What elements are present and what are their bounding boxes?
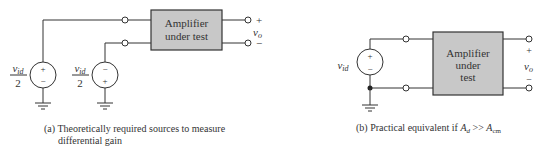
wire-b-top [370,39,433,49]
terminal-a-out2 [245,40,251,46]
source-b-minus: − [367,64,372,74]
amplifier-label-a1: Amplifier [165,17,209,29]
ground-icon [97,103,113,109]
terminal-a-in2 [122,40,128,46]
ground-icon [362,105,378,111]
circuit-a: Amplifier under test + − vo + − vid 2 − … [10,10,262,146]
source-a1-minus: − [40,76,45,86]
source-a1-label-num: vid [12,62,24,76]
source-a2-label-num: vid [74,62,86,76]
terminal-b-out2 [526,85,532,91]
circuit-b: Amplifier under test + − vo + − vid (b) … [337,32,532,135]
caption-a-line1: (a) Theoretically required sources to me… [44,123,226,135]
wire-a-top [43,20,151,62]
out-label-a: vo [253,26,262,40]
out-minus-b: − [526,74,532,85]
amplifier-label-b3: test [460,71,475,83]
source-b-plus: + [367,51,372,61]
out-plus-b: + [526,45,532,56]
terminal-a-in1 [122,17,128,23]
wire-a-out [222,20,245,43]
wire-a-bottom [105,43,151,62]
wire-b-bottom [370,75,433,88]
source-a1-label-den: 2 [15,77,21,89]
wire-b-out [503,39,526,88]
source-b-label: vid [337,59,349,73]
amplifier-label-b1: Amplifier [446,47,490,59]
source-a1-plus: + [40,64,45,74]
out-plus-a: + [256,14,262,26]
amplifier-label-b2: under [455,59,480,71]
source-a2-minus: − [102,64,107,74]
terminal-b-out1 [526,36,532,42]
source-a2-plus: + [102,76,107,86]
terminal-b-in2 [403,85,409,91]
circuit-diagram: Amplifier under test + − vo + − vid 2 − … [0,0,551,151]
caption-a-line2: differential gain [58,135,122,146]
terminal-b-in1 [403,36,409,42]
caption-b: (b) Practical equivalent if Ad >> Acm [356,122,502,135]
terminal-a-out1 [245,17,251,23]
out-label-b: vo [524,60,533,74]
amplifier-label-a2: under test [165,30,208,42]
source-a2-label-den: 2 [77,77,83,89]
ground-icon [35,103,51,109]
